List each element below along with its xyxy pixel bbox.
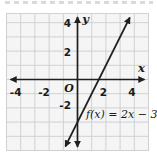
y-tick-label: 4	[64, 17, 71, 29]
x-tick-label: 2	[100, 86, 107, 98]
x-axis-label: x	[137, 61, 145, 75]
origin-label: O	[64, 82, 74, 95]
x-tick-label: -2	[38, 86, 50, 98]
y-tick-label: -2	[59, 99, 71, 111]
coordinate-plane: -4-22442-2 O x y f(x) = 2x − 3	[0, 0, 157, 157]
y-tick-label: 2	[64, 46, 71, 58]
y-axis-label: y	[81, 12, 90, 26]
x-tick-label: -4	[10, 86, 22, 98]
equation-label: f(x) = 2x − 3	[85, 108, 157, 121]
figure-container: -4-22442-2 O x y f(x) = 2x − 3	[0, 0, 157, 157]
x-tick-label: 4	[128, 86, 135, 98]
